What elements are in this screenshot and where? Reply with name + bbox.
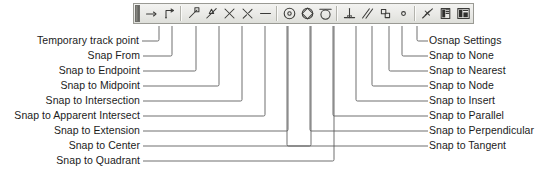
toolbar-drag-grip[interactable]	[135, 5, 140, 22]
leader-temporary-track-point	[142, 26, 159, 41]
toolbar-separator	[180, 6, 182, 21]
leader-snap-to-perpendicular	[310, 26, 428, 131]
osnap-settings-icon	[456, 6, 471, 21]
toolbar-button-snap-to-node[interactable]	[394, 4, 412, 23]
toolbar-separator	[336, 6, 338, 21]
toolbar-button-snap-to-center[interactable]	[280, 4, 298, 23]
callout-label-snap-to-center: Snap to Center	[69, 140, 140, 151]
snap-to-insert-icon	[378, 6, 393, 21]
snap-to-quadrant-icon	[300, 6, 315, 21]
toolbar-button-snap-to-apparent-intersect[interactable]	[238, 4, 256, 23]
diagram-canvas: Temporary track point Snap From Snap to …	[0, 0, 559, 180]
toolbar-button-snap-to-none[interactable]	[436, 4, 454, 23]
callout-label-snap-to-node: Snap to Node	[429, 80, 494, 91]
leader-snap-to-extension	[143, 26, 288, 131]
callout-label-snap-to-parallel: Snap to Parallel	[429, 110, 504, 121]
toolbar-button-snap-to-extension[interactable]	[256, 4, 274, 23]
snap-to-tangent-icon	[318, 6, 333, 21]
toolbar-button-snap-to-perpendicular[interactable]	[340, 4, 358, 23]
leader-osnap-settings	[417, 26, 428, 41]
toolbar-button-snap-to-midpoint[interactable]	[202, 4, 220, 23]
callout-label-snap-to-endpoint: Snap to Endpoint	[59, 65, 140, 76]
toolbar-button-snap-to-intersection[interactable]	[220, 4, 238, 23]
toolbar-button-temporary-track-point[interactable]	[142, 4, 160, 23]
snap-to-midpoint-icon	[204, 6, 219, 21]
callout-label-snap-to-none: Snap to None	[429, 50, 494, 61]
toolbar-button-osnap-settings[interactable]	[454, 4, 472, 23]
toolbar-button-snap-to-endpoint[interactable]	[184, 4, 202, 23]
snap-to-apparent-intersect-icon	[240, 6, 255, 21]
toolbar-separator	[276, 6, 278, 21]
toolbar-button-snap-to-nearest[interactable]	[418, 4, 436, 23]
callout-label-temporary-track-point: Temporary track point	[37, 35, 139, 46]
snap-to-node-icon	[396, 6, 411, 21]
callout-label-snap-to-extension: Snap to Extension	[54, 125, 140, 136]
callout-label-snap-to-apparent-intersect: Snap to Apparent Intersect	[14, 110, 140, 121]
snap-to-center-icon	[282, 6, 297, 21]
callout-label-snap-to-midpoint: Snap to Midpoint	[60, 80, 140, 91]
toolbar-button-snap-from[interactable]	[160, 4, 178, 23]
snap-to-perpendicular-icon	[342, 6, 357, 21]
toolbar-button-snap-to-insert[interactable]	[376, 4, 394, 23]
snap-to-extension-icon	[258, 6, 273, 21]
object-snap-toolbar[interactable]	[133, 3, 474, 24]
callout-label-snap-to-perpendicular: Snap to Perpendicular	[429, 125, 534, 136]
callout-label-snap-to-tangent: Snap to Tangent	[429, 140, 506, 151]
callout-label-osnap-settings: Osnap Settings	[429, 35, 502, 46]
callout-label-snap-from: Snap From	[88, 50, 140, 61]
snap-from-icon	[162, 6, 177, 21]
toolbar-button-snap-to-quadrant[interactable]	[298, 4, 316, 23]
snap-to-nearest-icon	[420, 6, 435, 21]
callout-label-snap-to-nearest: Snap to Nearest	[429, 65, 506, 76]
leader-snap-to-endpoint	[143, 26, 196, 71]
snap-to-parallel-icon	[360, 6, 375, 21]
snap-to-intersection-icon	[222, 6, 237, 21]
leader-snap-to-nearest	[389, 26, 428, 71]
callout-label-snap-to-insert: Snap to Insert	[429, 95, 495, 106]
temporary-track-point-icon	[144, 6, 159, 21]
leader-snap-to-intersection	[143, 26, 242, 101]
snap-to-endpoint-icon	[186, 6, 201, 21]
toolbar-separator	[414, 6, 416, 21]
toolbar-button-snap-to-parallel[interactable]	[358, 4, 376, 23]
callout-label-snap-to-quadrant: Snap to Quadrant	[56, 155, 140, 166]
snap-to-none-icon	[438, 6, 453, 21]
callout-label-snap-to-intersection: Snap to Intersection	[46, 95, 140, 106]
toolbar-button-snap-to-tangent[interactable]	[316, 4, 334, 23]
